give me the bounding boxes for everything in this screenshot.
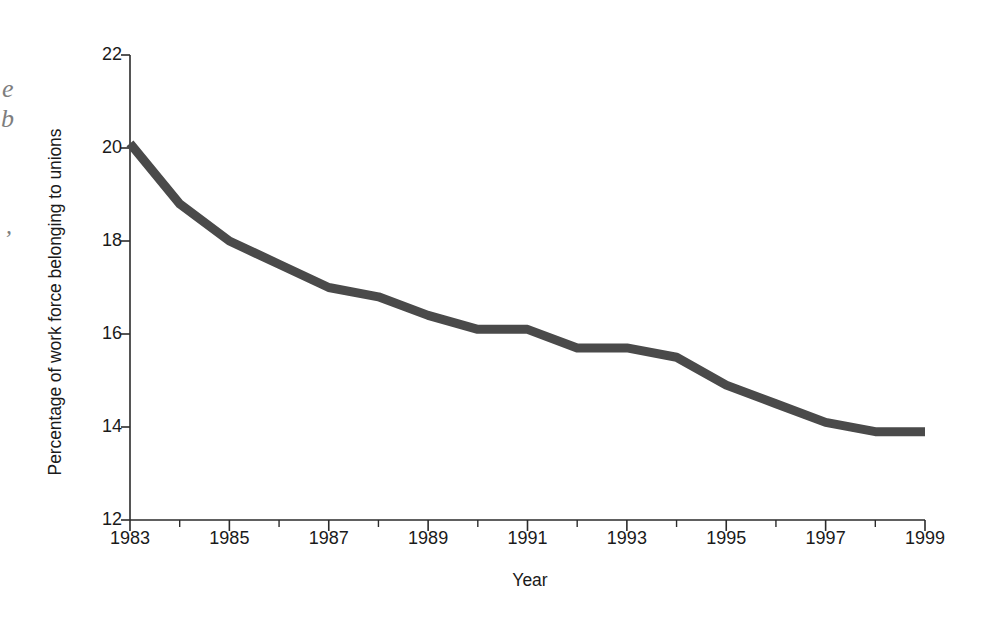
x-tick-label: 1995 bbox=[686, 528, 766, 549]
x-tick-label: 1989 bbox=[388, 528, 468, 549]
x-tick-label: 1999 bbox=[885, 528, 965, 549]
x-tick-label: 1993 bbox=[587, 528, 667, 549]
x-tick-label: 1987 bbox=[289, 528, 369, 549]
x-tick-label: 1985 bbox=[189, 528, 269, 549]
chart-figure: e b , Percentage of work force belonging… bbox=[0, 0, 982, 621]
x-tick-label: 1983 bbox=[90, 528, 170, 549]
x-tick-label: 1991 bbox=[488, 528, 568, 549]
x-axis-tick-labels: 198319851987198919911993199519971999 bbox=[0, 0, 982, 621]
x-tick-label: 1997 bbox=[786, 528, 866, 549]
